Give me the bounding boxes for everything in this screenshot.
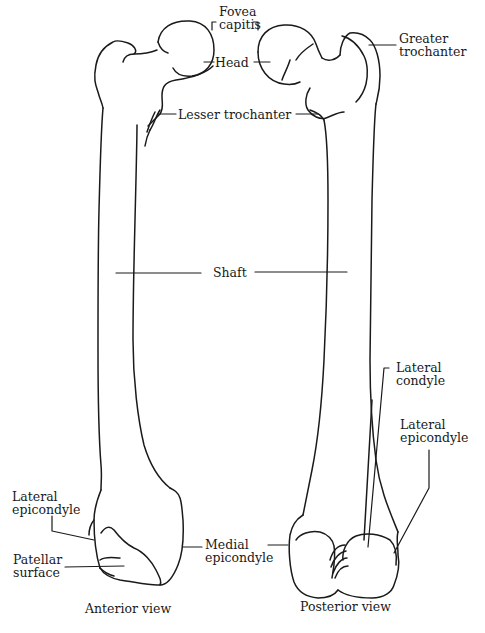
- label-medial-epicondyle: Medial epicondyle: [205, 538, 273, 564]
- caption-anterior-view: Anterior view: [85, 602, 171, 615]
- label-lesser-trochanter: Lesser trochanter: [178, 108, 291, 121]
- anterior-femur: [89, 21, 214, 585]
- label-lateral-epicondyle-posterior: Lateral epicondyle: [400, 418, 468, 444]
- label-shaft: Shaft: [213, 266, 247, 279]
- label-patellar-surface: Patellar surface: [13, 553, 62, 579]
- leader-lines: [52, 22, 429, 567]
- label-greater-trochanter: Greater trochanter: [399, 32, 466, 58]
- label-head: Head: [215, 56, 249, 69]
- label-lateral-epicondyle-anterior: Lateral epicondyle: [12, 490, 80, 516]
- label-fovea-capitis: Fovea capitis: [219, 5, 261, 31]
- femur-diagram: Fovea capitis Head Greater trochanter Le…: [0, 0, 485, 633]
- caption-posterior-view: Posterior view: [300, 600, 391, 613]
- label-lateral-condyle: Lateral condyle: [396, 361, 445, 387]
